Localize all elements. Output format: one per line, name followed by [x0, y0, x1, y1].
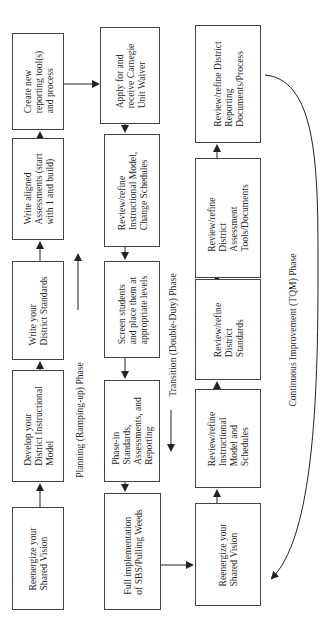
phase-label-planning: Planning (Ramping-up) Phase: [74, 362, 85, 478]
step-label: Reenergize your Shared Vision: [217, 523, 239, 586]
step-label: Phase-in Standards, Assessments, and Rep…: [110, 397, 154, 465]
step-write-aligned-assessments: Write aligned Assessments (start with 1 …: [12, 138, 64, 240]
step-review-assessment-tools: Review/refine District Assessment Tools/…: [195, 158, 261, 278]
step-full-implementation: Full implementation of SBS/Pulling Weeds: [104, 493, 161, 610]
step-review-instructional-model: Review/refine Instructional Model, Chang…: [104, 134, 160, 247]
step-label: Review/refine Instructional Model and Sc…: [206, 411, 250, 465]
step-label: Full implementation of SBS/Pulling Weeds: [122, 509, 144, 594]
step-review-model-schedules: Review/refine Instructional Model and Sc…: [195, 389, 261, 488]
step-label: Review/refine District Standards: [212, 302, 245, 356]
step-review-district-standards: Review/refine District Standards: [195, 279, 261, 380]
step-label: Review/refine District Assessment Tools/…: [206, 184, 250, 252]
step-label: Create new reporting tool(s) and process: [22, 50, 55, 113]
step-label: Review/refine Instructional Model, Chang…: [116, 151, 149, 229]
step-reenergize-vision-2: Reenergize your Shared Vision: [195, 503, 261, 606]
phase-label-continuous: Continuous Improvement (TQM) Phase: [287, 253, 298, 406]
step-apply-carnegie-waiver: Apply for and receive Carnegie Unit Waiv…: [100, 27, 160, 124]
step-write-district-standards: Write your District Standards: [12, 261, 64, 360]
step-label: Review/refine District Reporting Documen…: [212, 41, 245, 127]
step-phase-in: Phase-in Standards, Assessments, and Rep…: [104, 380, 160, 482]
step-review-reporting-documents: Review/refine District Reporting Documen…: [195, 25, 261, 143]
step-label: Apply for and receive Carnegie Unit Waiv…: [114, 43, 147, 108]
phase-label-transition: Transition (Double-Duty) Phase: [167, 273, 178, 396]
step-label: Reenergize your Shared Vision: [27, 527, 49, 590]
step-label: Screen students and place them at approp…: [116, 275, 149, 343]
step-label: Write your District Standards: [27, 276, 49, 345]
step-label: Develop your District Instructional Mode…: [22, 386, 55, 466]
step-label: Write aligned Assessments (start with 1 …: [22, 153, 55, 224]
step-reenergize-vision: Reenergize your Shared Vision: [12, 507, 64, 610]
step-develop-instructional-model: Develop your District Instructional Mode…: [12, 370, 64, 482]
step-create-reporting-tools: Create new reporting tool(s) and process: [12, 33, 64, 130]
step-screen-students: Screen students and place them at approp…: [104, 261, 160, 358]
